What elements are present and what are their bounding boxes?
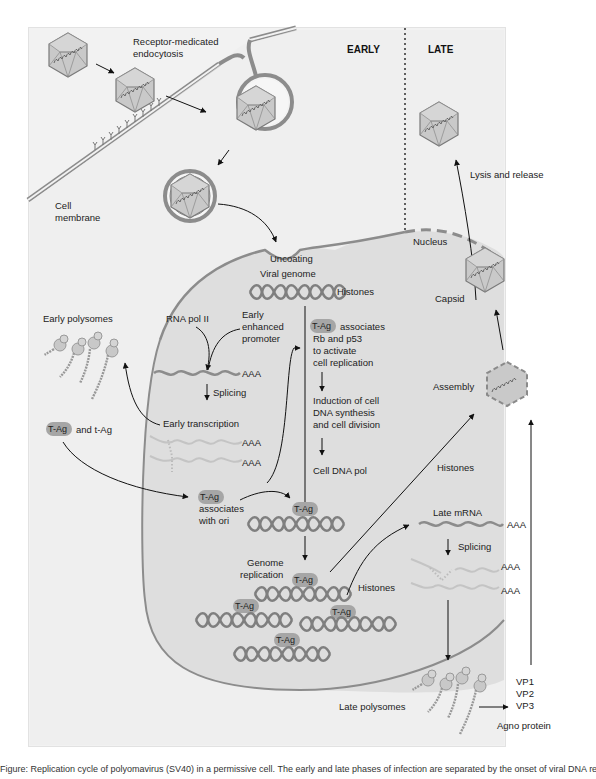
assembly-label: Assembly xyxy=(433,381,474,392)
early-promoter-label-2: enhanced xyxy=(242,321,284,332)
late-header: LATE xyxy=(428,44,454,55)
early-header: EARLY xyxy=(347,44,380,55)
induction-label-3: and cell division xyxy=(313,419,380,430)
cell-membrane-label: Cell xyxy=(55,200,71,211)
tag-badge: T-Ag xyxy=(294,504,313,514)
vp3-label: VP3 xyxy=(516,700,534,711)
genome-replication-label-1: Genome xyxy=(247,557,283,568)
viral-genome-label: Viral genome xyxy=(260,268,316,279)
aaa-label-5: AAA xyxy=(501,561,521,572)
early-promoter-label-1: Early xyxy=(242,309,264,320)
receptor-label-2: endocytosis xyxy=(133,48,183,59)
agno-protein-label: Agno protein xyxy=(497,720,551,731)
tag-rb-label-1: associates xyxy=(340,321,385,332)
polyomavirus-life-cycle-diagram: EARLY LATE Receptor-medicated endocytosi… xyxy=(0,0,596,779)
cell-membrane-label-2: membrane xyxy=(55,212,100,223)
uncoating-label: Uncoating xyxy=(270,253,313,264)
tag-badge: T-Ag xyxy=(294,575,313,585)
histones-label-low: Histones xyxy=(358,582,395,593)
tag-rb-label-4: cell replication xyxy=(313,357,373,368)
tag-badge: T-Ag xyxy=(332,607,351,617)
genome-replication-label-2: replication xyxy=(240,569,283,580)
early-polysomes-label: Early polysomes xyxy=(43,313,113,324)
tag-rb-label-3: to activate xyxy=(313,345,356,356)
vp2-label: VP2 xyxy=(516,688,534,699)
virion-bound-icon xyxy=(116,68,154,112)
ori-label-1: associates xyxy=(199,503,244,514)
aaa-label-6: AAA xyxy=(501,585,521,596)
early-transcription-label: Early transcription xyxy=(163,418,239,429)
induction-label-2: DNA synthesis xyxy=(313,407,375,418)
tag-badge: T-Ag xyxy=(312,321,331,331)
histones-label-mid: Histones xyxy=(437,462,474,473)
ori-label-2: with ori xyxy=(198,515,229,526)
splicing-label-early: Splicing xyxy=(213,387,246,398)
figure-caption: Figure: Replication cycle of polyomaviru… xyxy=(0,764,596,779)
capsid-label: Capsid xyxy=(435,293,465,304)
tag-badge: T-Ag xyxy=(200,492,219,502)
late-polysomes-label: Late polysomes xyxy=(339,701,406,712)
tag-rb-label-2: Rb and p53 xyxy=(313,333,362,344)
nucleus-label: Nucleus xyxy=(413,236,448,247)
receptor-label: Receptor-medicated xyxy=(133,36,219,47)
cell-dna-pol-label: Cell DNA pol xyxy=(313,465,367,476)
tag-badge: T-Ag xyxy=(276,635,295,645)
early-promoter-label-3: promoter xyxy=(242,333,280,344)
histones-label-top: Histones xyxy=(337,286,374,297)
tag-and-tag-label: and t-Ag xyxy=(76,424,112,435)
induction-label-1: Induction of cell xyxy=(313,395,379,406)
late-mrna-label: Late mRNA xyxy=(433,507,483,518)
tag-badge: T-Ag xyxy=(48,424,67,434)
splicing-label-late: Splicing xyxy=(458,541,491,552)
tag-badge: T-Ag xyxy=(235,601,254,611)
aaa-label-3: AAA xyxy=(242,457,262,468)
vp1-label: VP1 xyxy=(516,676,534,687)
lysis-label: Lysis and release xyxy=(470,169,544,180)
aaa-label-1: AAA xyxy=(242,368,262,379)
aaa-label-4: AAA xyxy=(507,519,527,530)
rna-pol-label: RNA pol II xyxy=(166,313,209,324)
virion-icon xyxy=(49,33,87,77)
aaa-label-2: AAA xyxy=(242,437,262,448)
